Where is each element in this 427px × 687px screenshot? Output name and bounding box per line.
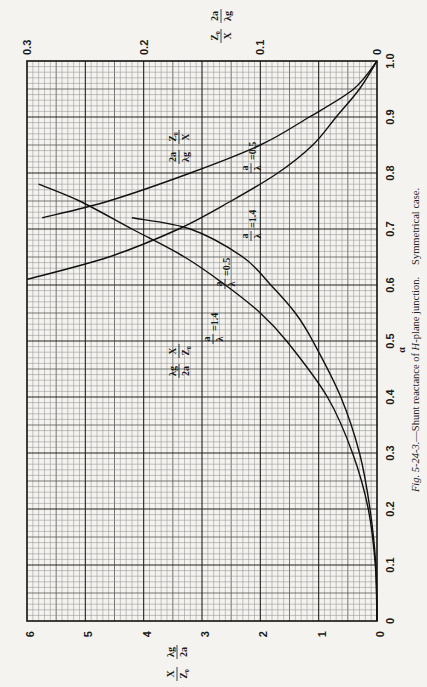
left-y-tick-label: 3: [199, 631, 211, 637]
x-axis-label: α: [396, 347, 407, 353]
x-tick-label: 0.1: [384, 557, 396, 572]
susc-num2: Z₀: [167, 132, 178, 142]
right-y-tick-label: 0.3: [21, 40, 33, 55]
caption-fig: Fig. 5-24-3.: [410, 442, 421, 493]
caption-text: —Shunt reactance of: [410, 350, 421, 442]
x-tick-label: 0.5: [384, 333, 396, 348]
right-y-tick-label: 0.2: [138, 40, 150, 55]
caption-text2: -plane junction.: [410, 277, 421, 343]
a-num: a: [213, 282, 224, 287]
left-y-tick-label: 4: [141, 630, 153, 637]
lambda-den: λ: [252, 233, 263, 238]
react-num2: X: [167, 347, 178, 355]
react-den1: 2a: [180, 366, 191, 376]
a-num: a: [239, 166, 250, 171]
react-num1: λg: [167, 366, 178, 376]
susc-den1: λg: [180, 152, 191, 162]
left-axis-label-num1: X: [165, 670, 176, 678]
right-axis-label-num2: 2a: [209, 11, 220, 21]
lambda-den: λ: [252, 165, 263, 170]
x-tick-label: 0.8: [384, 165, 396, 180]
a-num: a: [201, 337, 212, 342]
react-den2: Z₀: [180, 346, 191, 356]
x-tick-label: 0.9: [384, 109, 396, 124]
lambda-den: λ: [226, 281, 237, 286]
left-y-tick-label: 1: [316, 631, 328, 637]
right-y-tick-label: 0.1: [254, 40, 266, 55]
left-y-tick-label: 0: [374, 631, 386, 637]
left-axis-label-num2: λg: [165, 647, 176, 657]
x-tick-label: 0.6: [384, 277, 396, 292]
right-axis-label-num1: Z₀: [209, 31, 220, 41]
eq-value: =0.5: [247, 142, 258, 160]
eq-value: =0.5: [221, 258, 232, 276]
right-y-tick-label: 0: [371, 49, 383, 55]
right-axis-label-den2: λg: [222, 11, 233, 21]
x-tick-label: 0.7: [384, 221, 396, 236]
left-y-tick-label: 2: [257, 631, 269, 637]
x-tick-label: 0.4: [384, 388, 396, 404]
left-axis-label-den1: Z₀: [178, 669, 189, 679]
caption-text3: Symmetrical case.: [410, 188, 421, 265]
susc-num1: 2a: [167, 152, 178, 162]
a-num: a: [239, 234, 250, 239]
left-y-tick-label: 6: [24, 631, 36, 637]
x-tick-label: 0: [384, 618, 396, 624]
eq-value: =1.4: [209, 313, 220, 331]
x-tick-label: 1.0: [384, 53, 396, 68]
x-tick-label: 0.2: [384, 501, 396, 516]
left-axis-label-den2: 2a: [178, 647, 189, 657]
eq-value: =1.4: [247, 210, 258, 228]
lambda-den: λ: [214, 336, 225, 341]
figure-caption: Fig. 5-24-3.—Shunt reactance of H-plane …: [410, 188, 421, 493]
chart: 00.10.20.30.40.50.60.70.80.91.0012345600…: [0, 0, 427, 687]
left-y-tick-label: 5: [82, 631, 94, 637]
right-axis-label-den1: X: [222, 32, 233, 40]
susc-den2: X: [180, 133, 191, 141]
x-tick-label: 0.3: [384, 445, 396, 460]
